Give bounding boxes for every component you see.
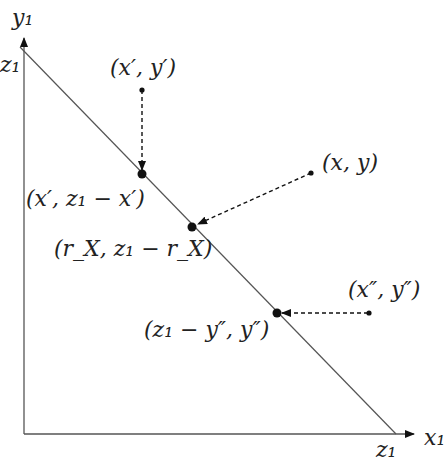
label-x-prime-source: (x′, y′) (110, 55, 176, 80)
point-x-double-prime-source (366, 310, 371, 315)
point-x-prime-source (139, 87, 144, 92)
point-x-prime-projection (138, 170, 147, 179)
label-x-prime-projection: (x′, z₁ − x′) (26, 186, 145, 211)
point-xy-source (308, 170, 313, 175)
x-axis-label: x₁ (424, 425, 445, 450)
label-x-double-prime-source: (x″, y″) (348, 277, 420, 302)
y-axis-label: y₁ (11, 5, 33, 30)
label-xy-source: (x, y) (322, 150, 378, 175)
x-intercept-label: z₁ (375, 437, 396, 462)
y-intercept-label: z₁ (0, 52, 20, 77)
label-xy-projection: (r_X, z₁ − r_X) (54, 236, 212, 261)
point-xy-projection (188, 223, 197, 232)
label-x-double-prime-projection: (z₁ − y″, y″) (144, 317, 269, 342)
point-x-double-prime-projection (273, 309, 282, 318)
projection-arrow-xy (198, 173, 311, 224)
projection-diagram: y₁ z₁ x₁ z₁ (x′, y′) (x′, z₁ − x′) (x, y… (0, 0, 446, 463)
